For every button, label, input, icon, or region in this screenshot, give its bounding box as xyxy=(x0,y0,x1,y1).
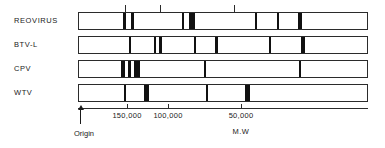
origin-arrow-head-icon xyxy=(78,105,84,110)
band xyxy=(298,13,302,29)
origin-arrow-shaft xyxy=(80,110,81,124)
band xyxy=(301,37,305,53)
band xyxy=(123,13,126,29)
origin-label: Origin xyxy=(74,130,94,138)
band xyxy=(206,85,208,101)
lane-bar-wtv xyxy=(78,84,368,102)
gel-electrophoresis-figure: REOVIRUSBTV-LCPVWTV 150,000100,00050,000… xyxy=(0,0,385,148)
band xyxy=(121,61,125,77)
axis-line xyxy=(78,108,368,109)
band xyxy=(182,13,184,29)
band xyxy=(245,85,250,101)
lane-bar-reovirus xyxy=(78,12,368,30)
axis-tick-label: 50,000 xyxy=(229,112,254,120)
band xyxy=(299,61,301,77)
lane-bar-cpv xyxy=(78,60,368,78)
axis-tick xyxy=(241,104,242,108)
top-marker-ticks xyxy=(0,5,385,12)
lane-label-wtv: WTV xyxy=(14,89,32,97)
axis-tick xyxy=(127,104,128,108)
band xyxy=(189,13,195,29)
band xyxy=(255,13,257,29)
band xyxy=(131,13,134,29)
lane-label-cpv: CPV xyxy=(14,65,31,73)
band xyxy=(129,37,131,53)
band xyxy=(194,37,196,53)
top-marker-tick xyxy=(125,5,126,12)
band xyxy=(144,85,149,101)
lane-bar-btv-l xyxy=(78,36,368,54)
band xyxy=(215,37,218,53)
band xyxy=(269,37,271,53)
axis-tick xyxy=(168,104,169,108)
band xyxy=(124,85,126,101)
lane-label-reovirus: REOVIRUS xyxy=(14,17,58,25)
band xyxy=(128,61,131,77)
axis-tick-label: 150,000 xyxy=(112,112,141,120)
top-marker-tick xyxy=(160,5,161,12)
top-marker-tick xyxy=(234,5,235,12)
lane-label-btv-l: BTV-L xyxy=(14,41,38,49)
axis-tick-label: 100,000 xyxy=(153,112,182,120)
band xyxy=(154,37,156,53)
band xyxy=(204,61,206,77)
band xyxy=(134,61,140,77)
band xyxy=(159,37,162,53)
band xyxy=(277,13,279,29)
axis-title: M.W xyxy=(233,128,250,136)
